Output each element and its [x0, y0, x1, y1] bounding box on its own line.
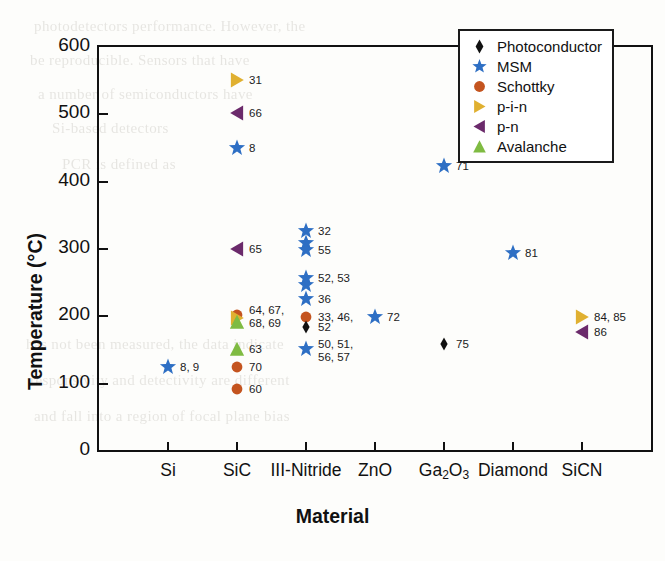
legend-item-label: Photoconductor: [497, 38, 602, 55]
data-point-reference-label: 50, 51, 56, 57: [318, 338, 353, 363]
legend-item-photoconductor[interactable]: Photoconductor: [468, 36, 602, 56]
x-axis-tick-label: SiCN: [522, 460, 642, 481]
data-point-photoconductor[interactable]: [437, 337, 451, 351]
y-axis-tick-label: 400: [34, 169, 90, 191]
x-axis-tick: [236, 442, 238, 451]
data-point-msm[interactable]: [229, 140, 246, 157]
legend-item-label: MSM: [497, 58, 532, 75]
y-axis-tick: [99, 315, 108, 317]
data-point-schottky[interactable]: [230, 382, 245, 397]
y-axis-tick: [99, 181, 108, 183]
legend-item-label: Avalanche: [497, 138, 567, 155]
data-point-reference-label: 63: [249, 343, 262, 356]
data-point-p-n[interactable]: [229, 241, 246, 258]
data-point-reference-label: 72: [387, 311, 400, 324]
data-point-msm[interactable]: [298, 242, 315, 259]
legend: PhotoconductorMSMSchottkyp-i-np-nAvalanc…: [458, 29, 614, 163]
y-axis-tick-label: 500: [34, 101, 90, 123]
y-axis-tick-label: 200: [34, 303, 90, 325]
x-axis-label-text: Material: [296, 505, 370, 527]
legend-item-avalanche[interactable]: Avalanche: [468, 136, 602, 156]
y-axis-tick: [99, 113, 108, 115]
data-point-reference-label: 8, 9: [180, 361, 199, 374]
scatter-chart: Temperature (°C) 0100200300400500600 SiS…: [0, 0, 665, 561]
triangle-right-icon: [468, 97, 490, 115]
triangle-left-icon: [468, 117, 490, 135]
data-point-reference-label: 52: [318, 321, 331, 334]
x-axis-tick: [305, 442, 307, 451]
data-point-schottky[interactable]: [230, 360, 245, 375]
data-point-reference-label: 75: [456, 338, 469, 351]
data-point-reference-label: 32: [318, 225, 331, 238]
x-axis-label: Material: [0, 505, 665, 528]
data-point-p-n[interactable]: [574, 324, 591, 341]
data-point-avalanche[interactable]: [229, 314, 246, 331]
data-point-msm[interactable]: [298, 291, 315, 308]
x-axis-tick: [167, 442, 169, 451]
data-point-photoconductor[interactable]: [299, 320, 313, 334]
data-point-reference-label: 8: [249, 142, 255, 155]
data-point-reference-label: 55: [318, 244, 331, 257]
x-axis-tick: [512, 442, 514, 451]
y-axis-tick-label: 600: [34, 34, 90, 56]
data-point-reference-label: 66: [249, 107, 262, 120]
legend-item-label: Schottky: [497, 78, 555, 95]
data-point-msm[interactable]: [160, 359, 177, 376]
data-point-p-n[interactable]: [229, 105, 246, 122]
data-point-reference-label: 65: [249, 243, 262, 256]
legend-item-label: p-i-n: [497, 98, 527, 115]
y-axis-tick-label: 100: [34, 371, 90, 393]
data-point-reference-label: 31: [249, 74, 262, 87]
x-axis-tick: [443, 442, 445, 451]
y-axis-tick: [99, 383, 108, 385]
legend-item-p-i-n[interactable]: p-i-n: [468, 96, 602, 116]
star-icon: [468, 57, 490, 75]
data-point-reference-label: 52, 53: [318, 272, 350, 285]
right-axis-line: [651, 45, 653, 452]
circle-icon: [468, 77, 490, 95]
data-point-reference-label: 64, 67, 68, 69: [249, 304, 284, 329]
data-point-reference-label: 81: [525, 247, 538, 260]
diamond-icon: [468, 37, 490, 55]
data-point-msm[interactable]: [367, 309, 384, 326]
y-axis-tick-label: 0: [34, 438, 90, 460]
data-point-reference-label: 60: [249, 383, 262, 396]
data-point-msm[interactable]: [505, 244, 522, 261]
triangle-up-icon: [468, 137, 490, 155]
data-point-reference-label: 70: [249, 361, 262, 374]
data-point-msm[interactable]: [298, 341, 315, 358]
data-point-reference-label: 86: [594, 326, 607, 339]
data-point-msm[interactable]: [436, 157, 453, 174]
x-axis-tick: [374, 442, 376, 451]
legend-item-p-n[interactable]: p-n: [468, 116, 602, 136]
x-axis-tick: [581, 442, 583, 451]
legend-item-schottky[interactable]: Schottky: [468, 76, 602, 96]
y-axis-tick: [99, 248, 108, 250]
legend-item-label: p-n: [497, 118, 519, 135]
data-point-p-i-n[interactable]: [229, 71, 246, 88]
y-axis-tick-label: 300: [34, 236, 90, 258]
data-point-avalanche[interactable]: [229, 341, 246, 358]
data-point-reference-label: 36: [318, 293, 331, 306]
legend-item-msm[interactable]: MSM: [468, 56, 602, 76]
data-point-reference-label: 84, 85: [594, 311, 626, 324]
